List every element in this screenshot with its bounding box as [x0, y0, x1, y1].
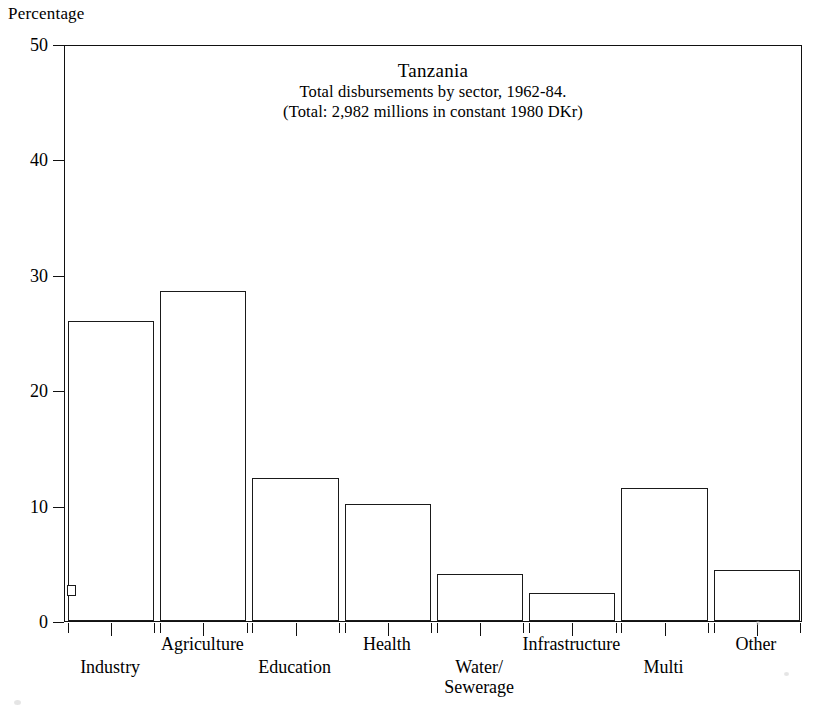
x-axis-label: Infrastructure — [522, 634, 620, 654]
y-tick-label: 0 — [0, 613, 48, 631]
y-tick-mark — [53, 391, 64, 392]
x-axis-label: Other — [735, 634, 776, 654]
x-tick-boundary — [252, 623, 253, 633]
x-tick-boundary — [800, 623, 801, 633]
y-tick-mark — [53, 622, 64, 623]
x-tick-boundary — [160, 623, 161, 633]
chart-title: Tanzania — [65, 60, 801, 82]
x-tick-boundary — [708, 623, 709, 633]
y-tick-mark — [53, 276, 64, 277]
x-tick-boundary — [345, 623, 346, 633]
x-tick-boundary — [154, 623, 155, 633]
x-tick-center — [111, 623, 112, 636]
y-tick-label: 50 — [0, 36, 48, 54]
x-tick-boundary — [68, 623, 69, 633]
bar-education — [252, 478, 338, 621]
x-axis-label: Health — [363, 634, 411, 654]
x-tick-center — [296, 623, 297, 636]
y-tick-mark — [53, 160, 64, 161]
x-tick-center — [480, 623, 481, 636]
y-axis-caption: Percentage — [8, 4, 85, 24]
x-axis-label: Water/ Sewerage — [444, 657, 514, 697]
chart-subtitle-line-2: (Total: 2,982 millions in constant 1980 … — [65, 102, 801, 121]
bar-agriculture — [160, 291, 246, 621]
x-tick-boundary — [616, 623, 617, 633]
y-tick-mark — [53, 45, 64, 46]
scan-speckle — [14, 700, 21, 705]
x-axis-label: Education — [258, 657, 331, 677]
x-axis-label: Industry — [80, 657, 140, 677]
bar-notch-artifact — [67, 585, 76, 596]
chart-title-block: Tanzania Total disbursements by sector, … — [65, 60, 801, 121]
chart-subtitle-line-1: Total disbursements by sector, 1962-84. — [65, 82, 801, 101]
x-tick-boundary — [431, 623, 432, 633]
bar-watersewerage — [437, 574, 523, 621]
bar-industry — [68, 321, 154, 621]
x-tick-boundary — [523, 623, 524, 633]
x-axis-label: Agriculture — [161, 634, 244, 654]
bar-infrastructure — [529, 593, 615, 621]
y-tick-label: 30 — [0, 267, 48, 285]
x-tick-boundary — [529, 623, 530, 633]
x-tick-center — [665, 623, 666, 636]
chart-figure: Percentage Tanzania Total disbursements … — [0, 0, 818, 707]
bar-other — [714, 570, 800, 621]
x-tick-boundary — [714, 623, 715, 633]
x-tick-boundary — [437, 623, 438, 633]
y-tick-mark — [53, 507, 64, 508]
scan-speckle — [756, 621, 760, 625]
y-tick-label: 20 — [0, 382, 48, 400]
x-tick-boundary — [621, 623, 622, 633]
x-axis-label: Multi — [644, 657, 684, 677]
x-tick-boundary — [339, 623, 340, 633]
bar-multi — [621, 488, 707, 621]
y-tick-label: 10 — [0, 498, 48, 516]
scan-speckle — [784, 672, 789, 676]
bar-health — [345, 504, 431, 621]
plot-area: Tanzania Total disbursements by sector, … — [64, 45, 802, 622]
y-tick-label: 40 — [0, 151, 48, 169]
x-tick-boundary — [247, 623, 248, 633]
